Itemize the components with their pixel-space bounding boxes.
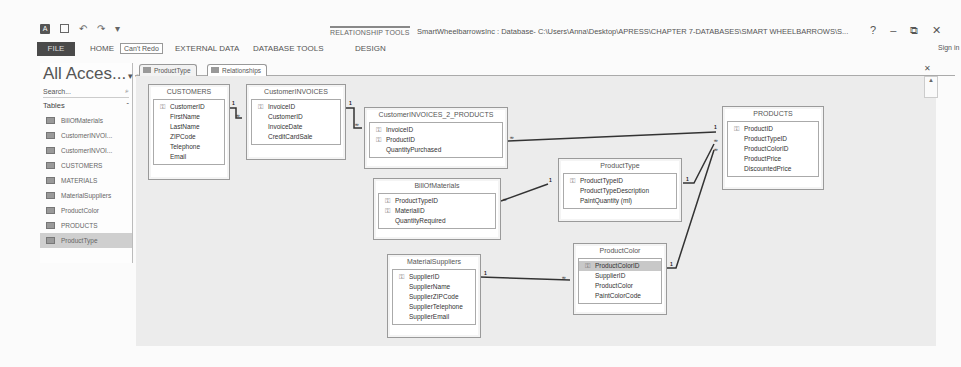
help-icon[interactable]: ?	[870, 24, 876, 37]
redo-icon[interactable]: ↷	[97, 23, 105, 34]
nav-item-materials[interactable]: MATERIALS	[40, 173, 132, 188]
nav-item-customerinvoices-2-products[interactable]: CustomerINVOI...	[40, 143, 132, 158]
close-document-icon[interactable]: ✕	[924, 64, 931, 73]
table-title: CustomerINVOICES	[247, 85, 345, 99]
restore-icon[interactable]: ⧉	[910, 24, 918, 37]
field-producttypeid[interactable]: ⚿ProductTypeID	[379, 196, 495, 206]
rel-many-label: ∞	[562, 274, 566, 280]
nav-item-products[interactable]: PRODUCTS	[40, 218, 132, 233]
context-tab-label: RELATIONSHIP TOOLS	[330, 26, 410, 36]
tab-file[interactable]: FILE	[37, 42, 75, 56]
tab-database-tools[interactable]: DATABASE TOOLS	[253, 44, 324, 53]
field-email[interactable]: Email	[154, 152, 224, 162]
save-icon[interactable]	[60, 24, 69, 33]
field-supplierid[interactable]: ⚿SupplierID	[393, 272, 475, 282]
chevron-up-icon[interactable]: ˆ	[127, 101, 130, 110]
field-productcolorid[interactable]: ⚿ProductColorID	[579, 261, 661, 271]
field-quantityrequired[interactable]: QuantityRequired	[379, 216, 495, 226]
nav-item-productcolor[interactable]: ProductColor	[40, 203, 132, 218]
field-customerid[interactable]: CustomerID	[252, 112, 340, 122]
close-icon[interactable]: ✕	[932, 24, 941, 37]
nav-group-tables[interactable]: Tables ˆ	[40, 98, 132, 113]
table-customerinvoices-2-products[interactable]: CustomerINVOICES_2_PRODUCTS ⚿InvoiceID ⚿…	[364, 107, 508, 169]
table-products[interactable]: PRODUCTS ⚿ProductID ProductTypeID Produc…	[722, 106, 824, 190]
access-app-icon[interactable]: A	[40, 24, 50, 34]
vertical-scrollbar[interactable]: ▲	[924, 76, 938, 98]
nav-item-billofmaterials[interactable]: BillOfMaterials	[40, 113, 132, 128]
field-invoiceid[interactable]: ⚿InvoiceID	[252, 102, 340, 112]
table-customers[interactable]: CUSTOMERS ⚿CustomerID FirstName LastName…	[148, 84, 230, 180]
table-billofmaterials[interactable]: BillOfMaterials ⚿ProductTypeID ⚿Material…	[373, 178, 501, 240]
nav-pane-header[interactable]: All Acces...▾«	[40, 63, 132, 85]
field-customerid[interactable]: ⚿CustomerID	[154, 102, 224, 112]
field-list: ⚿ProductTypeID ProductTypeDescription Pa…	[563, 173, 677, 209]
doc-tab-label: ProductType	[154, 67, 191, 74]
rel-one-label: 1	[670, 261, 673, 267]
nav-item-producttype[interactable]: ProductType	[40, 233, 132, 248]
field-firstname[interactable]: FirstName	[154, 112, 224, 122]
rel-many-label: ∞	[714, 146, 718, 152]
nav-item-label: ProductType	[61, 237, 98, 244]
field-suppliertelephone[interactable]: SupplierTelephone	[393, 302, 475, 312]
field-paintquantity[interactable]: PaintQuantity (ml)	[564, 196, 676, 206]
field-producttypeid[interactable]: ⚿ProductTypeID	[564, 176, 676, 186]
field-productcolorid[interactable]: ProductColorID	[728, 144, 818, 154]
rel-one-label: 1	[714, 124, 717, 130]
field-producttypedescription[interactable]: ProductTypeDescription	[564, 186, 676, 196]
key-icon: ⚿	[258, 102, 263, 112]
field-creditcardsale[interactable]: CreditCardSale	[252, 132, 340, 142]
rel-one-label: 1	[549, 177, 552, 183]
rel-one-label: 1	[484, 270, 487, 276]
table-producttype[interactable]: ProductType ⚿ProductTypeID ProductTypeDe…	[558, 158, 682, 222]
table-materialsuppliers[interactable]: MaterialSuppliers ⚿SupplierID SupplierNa…	[387, 254, 481, 338]
table-customerinvoices[interactable]: CustomerINVOICES ⚿InvoiceID CustomerID I…	[246, 84, 346, 160]
key-icon: ⚿	[376, 135, 381, 145]
undo-icon[interactable]: ↶	[79, 23, 87, 34]
field-list: ⚿ProductID ProductTypeID ProductColorID …	[727, 121, 819, 177]
field-productcolor[interactable]: ProductColor	[579, 281, 661, 291]
field-paintcolorcode[interactable]: PaintColorCode	[579, 291, 661, 301]
rel-one-label: 1	[686, 176, 689, 182]
field-producttypeid[interactable]: ProductTypeID	[728, 134, 818, 144]
field-invoiceid[interactable]: ⚿InvoiceID	[370, 125, 502, 135]
nav-item-label: MATERIALS	[61, 177, 97, 184]
field-productprice[interactable]: ProductPrice	[728, 154, 818, 164]
field-telephone[interactable]: Telephone	[154, 142, 224, 152]
field-zipcode[interactable]: ZIPCode	[154, 132, 224, 142]
table-productcolor[interactable]: ProductColor ⚿ProductColorID SupplierID …	[573, 243, 667, 315]
field-discountedprice[interactable]: DiscountedPrice	[728, 164, 818, 174]
field-lastname[interactable]: LastName	[154, 122, 224, 132]
nav-dropdown-icon[interactable]: ▾	[128, 71, 133, 81]
field-supplieremail[interactable]: SupplierEmail	[393, 312, 475, 322]
field-supplierid[interactable]: SupplierID	[579, 271, 661, 281]
doc-tab-producttype[interactable]: ProductType	[139, 64, 197, 76]
nav-search-input[interactable]: Search... ⌕	[43, 85, 129, 98]
field-suppliername[interactable]: SupplierName	[393, 282, 475, 292]
key-icon: ⚿	[160, 102, 165, 112]
customize-qat-icon[interactable]: ▾	[115, 23, 120, 34]
field-quantitypurchased[interactable]: QuantityPurchased	[370, 145, 502, 155]
field-materialid[interactable]: ⚿MaterialID	[379, 206, 495, 216]
nav-item-label: CustomerINVOI...	[61, 147, 112, 154]
minimize-icon[interactable]: –	[890, 24, 896, 37]
doc-tab-relationships[interactable]: Relationships	[207, 64, 267, 76]
table-icon	[46, 222, 55, 229]
tab-home[interactable]: HOME	[90, 44, 114, 53]
field-productid[interactable]: ⚿ProductID	[728, 124, 818, 134]
nav-item-label: BillOfMaterials	[61, 117, 103, 124]
tab-design[interactable]: DESIGN	[355, 44, 386, 53]
table-icon	[46, 147, 55, 154]
table-icon	[46, 132, 55, 139]
field-supplierzipcode[interactable]: SupplierZIPCode	[393, 292, 475, 302]
table-title: CustomerINVOICES_2_PRODUCTS	[365, 108, 507, 122]
field-productid[interactable]: ⚿ProductID	[370, 135, 502, 145]
nav-item-materialsuppliers[interactable]: MaterialSuppliers	[40, 188, 132, 203]
search-icon[interactable]: ⌕	[125, 87, 129, 95]
rel-many-label: ∞	[236, 112, 240, 118]
nav-item-customerinvoices[interactable]: CustomerINVOI...	[40, 128, 132, 143]
table-icon	[46, 192, 55, 199]
field-invoicedate[interactable]: InvoiceDate	[252, 122, 340, 132]
nav-item-customers[interactable]: CUSTOMERS	[40, 158, 132, 173]
tab-external-data[interactable]: EXTERNAL DATA	[175, 44, 239, 53]
sign-in-link[interactable]: Sign in	[938, 44, 959, 51]
